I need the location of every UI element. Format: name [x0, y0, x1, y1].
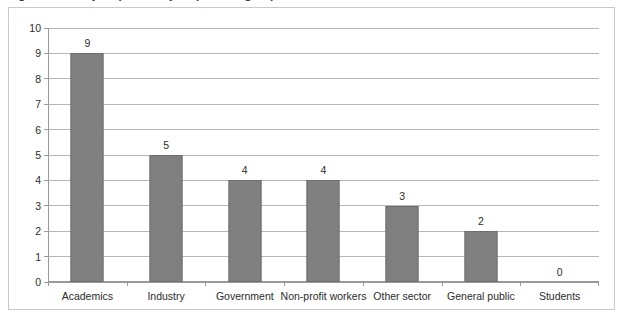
category-label-students: Students — [539, 290, 580, 302]
x-tick-mark-6 — [520, 282, 521, 286]
y-axis-label-5: 5 — [35, 149, 41, 161]
bar-value-label: 4 — [242, 164, 248, 176]
bar-industry[interactable] — [150, 155, 183, 282]
bar-general-public[interactable] — [464, 231, 497, 282]
bar-slot: 4 — [205, 28, 284, 282]
bar-value-label: 9 — [84, 37, 90, 49]
bar-value-label: 0 — [557, 266, 563, 278]
category-label-other-sector: Other sector — [373, 290, 431, 302]
plot-area: 0123456789109544320 — [48, 28, 599, 282]
y-axis-label-7: 7 — [35, 98, 41, 110]
bar-slot: 9 — [48, 28, 127, 282]
plot-inner: 0123456789109544320 — [48, 28, 599, 282]
bar-value-label: 3 — [399, 190, 405, 202]
bar-value-label: 4 — [321, 164, 327, 176]
bar-value-label: 5 — [163, 139, 169, 151]
bar-slot: 5 — [127, 28, 206, 282]
y-axis-label-4: 4 — [35, 174, 41, 186]
category-label-general-public: General public — [447, 290, 515, 302]
bar-academics[interactable] — [71, 53, 104, 282]
chart-frame: 0123456789109544320 AcademicsIndustryGov… — [8, 7, 615, 310]
x-tick-mark-7 — [598, 282, 599, 286]
bar-non-profit-workers[interactable] — [307, 180, 340, 282]
category-label-government: Government — [216, 290, 274, 302]
category-label-academics: Academics — [62, 290, 113, 302]
y-axis-label-10: 10 — [29, 22, 41, 34]
bar-slot: 2 — [442, 28, 521, 282]
x-tick-mark-2 — [205, 282, 206, 286]
bar-government[interactable] — [228, 180, 261, 282]
y-axis-label-6: 6 — [35, 124, 41, 136]
y-axis-label-3: 3 — [35, 200, 41, 212]
bar-slot: 3 — [363, 28, 442, 282]
x-tick-mark-5 — [442, 282, 443, 286]
cropped-title-strip: Figure 1: Survey responses by respondent… — [0, 0, 625, 6]
x-tick-mark-3 — [284, 282, 285, 286]
y-axis-label-1: 1 — [35, 251, 41, 263]
x-tick-mark-0 — [48, 282, 49, 286]
x-tick-mark-1 — [127, 282, 128, 286]
y-axis-label-0: 0 — [35, 276, 41, 288]
figure-title: Figure 1: Survey responses by respondent… — [8, 0, 277, 1]
bar-slot: 0 — [520, 28, 599, 282]
y-axis-label-8: 8 — [35, 73, 41, 85]
x-tick-mark-4 — [363, 282, 364, 286]
bar-value-label: 2 — [478, 215, 484, 227]
category-label-non-profit-workers: Non-profit workers — [281, 290, 367, 302]
category-label-industry: Industry — [147, 290, 184, 302]
bar-other-sector[interactable] — [386, 206, 419, 282]
bar-slot: 4 — [284, 28, 363, 282]
y-axis-label-9: 9 — [35, 47, 41, 59]
y-axis-label-2: 2 — [35, 225, 41, 237]
